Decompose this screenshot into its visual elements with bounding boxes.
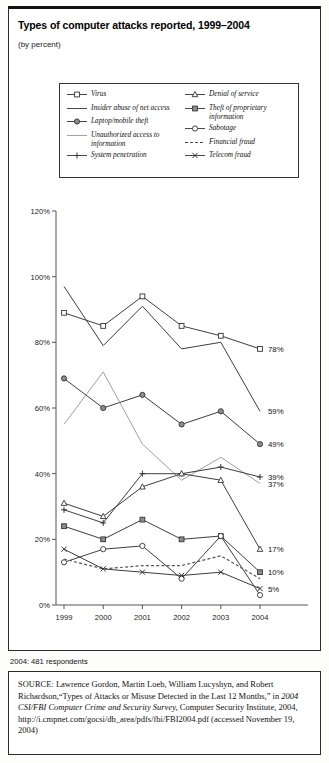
- series-system-penetration: 39%: [61, 464, 284, 526]
- data-point-marker: [101, 537, 106, 542]
- chart-svg: 0%20%40%60%80%100%120%199920002001200220…: [18, 195, 314, 647]
- data-point-marker: [257, 442, 262, 447]
- legend-item: Laptop/mobile theft: [66, 116, 182, 127]
- series-line: [64, 296, 260, 349]
- data-point-marker: [257, 474, 263, 480]
- series-unauthorized-access-to-information: 37%: [64, 372, 284, 489]
- x-axis-tick-label: 2003: [212, 613, 229, 622]
- x-axis-tick-label: 2001: [134, 613, 151, 622]
- data-point-marker: [218, 333, 223, 338]
- series-end-label: 78%: [268, 345, 284, 354]
- source-note: SOURCE: Lawrence Gordon, Martin Loeb, Wi…: [18, 679, 313, 737]
- legend-item: Telecom fraud: [184, 150, 296, 161]
- series-end-label: 17%: [268, 545, 284, 554]
- legend-item: Virus: [66, 89, 182, 100]
- legend-item-label: Telecom fraud: [209, 150, 251, 159]
- chart-subtitle: (by percent): [18, 40, 61, 49]
- series-line: [64, 287, 260, 412]
- data-point-marker: [61, 560, 66, 565]
- x-axis-tick-label: 2000: [95, 613, 112, 622]
- legend-item-label: Financial fraud: [209, 137, 255, 146]
- legend-item-label: System penetration: [91, 150, 147, 159]
- legend-item-label: Unauthorized access to information: [91, 130, 182, 148]
- y-axis-tick-label: 100%: [31, 273, 51, 282]
- legend-item: Denial of service: [184, 89, 296, 100]
- legend-item: Insider abuse of net access: [66, 103, 182, 114]
- series-line: [64, 549, 260, 588]
- series-insider-abuse-of-net-access: 59%: [64, 287, 284, 417]
- series-line: [64, 372, 260, 484]
- source-panel: SOURCE: Lawrence Gordon, Martin Loeb, Wi…: [8, 671, 321, 755]
- y-axis-tick-label: 0%: [39, 601, 50, 610]
- data-point-marker: [257, 546, 263, 551]
- series-end-label: 59%: [268, 407, 284, 416]
- line-chart-plot: 0%20%40%60%80%100%120%199920002001200220…: [18, 195, 314, 647]
- series-virus: 78%: [62, 294, 284, 354]
- data-point-marker: [101, 547, 106, 552]
- legend-item-label: Denial of service: [209, 89, 259, 98]
- chart-legend: VirusInsider abuse of net accessLaptop/m…: [59, 83, 299, 178]
- data-point-marker: [257, 593, 262, 598]
- x-axis-tick-label: 1999: [56, 613, 73, 622]
- legend-marker-filled-square-icon: [184, 103, 206, 114]
- series-telecom-fraud: 5%: [61, 547, 279, 594]
- series-line: [64, 556, 260, 579]
- data-point-marker: [258, 347, 263, 352]
- series-denial-of-service: 17%: [61, 471, 283, 555]
- x-axis-tick-label: 2002: [173, 613, 190, 622]
- series-financial-fraud: [64, 556, 260, 579]
- data-point-marker: [257, 586, 262, 591]
- y-axis-tick-label: 80%: [35, 338, 50, 347]
- data-point-marker: [62, 310, 67, 315]
- y-axis-tick-label: 20%: [35, 535, 50, 544]
- legend-marker-open-circle-icon: [184, 123, 206, 134]
- figure-page: Types of computer attacks reported, 1999…: [0, 0, 329, 763]
- legend-marker-x-icon: [184, 150, 206, 161]
- data-point-marker: [140, 517, 145, 522]
- legend-marker-none-icon: [66, 103, 88, 114]
- data-point-marker: [61, 376, 66, 381]
- legend-item: Unauthorized access to information: [66, 130, 182, 148]
- data-point-marker: [140, 392, 145, 397]
- source-label: SOURCE:: [18, 680, 54, 689]
- series-end-label: 49%: [268, 440, 284, 449]
- data-point-marker: [218, 409, 223, 414]
- data-point-marker: [258, 570, 263, 575]
- legend-item-label: Virus: [91, 89, 106, 98]
- source-text-1: Lawrence Gordon, Martin Loeb, William Lu…: [18, 679, 281, 701]
- y-axis-tick-label: 40%: [35, 470, 50, 479]
- data-point-marker: [61, 500, 67, 505]
- data-point-marker: [179, 537, 184, 542]
- y-axis-tick-label: 120%: [31, 207, 51, 216]
- legend-marker-open-square-icon: [66, 89, 88, 100]
- series-line: [64, 467, 260, 523]
- data-point-marker: [179, 324, 184, 329]
- y-axis-tick-label: 60%: [35, 404, 50, 413]
- data-point-marker: [61, 547, 66, 552]
- data-point-marker: [140, 543, 145, 548]
- chart-panel: Types of computer attacks reported, 1999…: [8, 6, 321, 651]
- series-line: [64, 379, 260, 445]
- legend-item: Theft of proprietary information: [184, 103, 296, 121]
- series-theft-of-proprietary-information: 10%: [62, 517, 284, 577]
- legend-item: Financial fraud: [184, 137, 296, 148]
- legend-item-label: Sabotage: [209, 123, 236, 132]
- data-point-marker: [140, 294, 145, 299]
- series-end-label: 10%: [268, 568, 284, 577]
- data-point-marker: [101, 324, 106, 329]
- legend-item-label: Insider abuse of net access: [91, 103, 170, 112]
- series-line: [64, 474, 260, 550]
- legend-item: Sabotage: [184, 123, 296, 134]
- data-point-marker: [61, 507, 67, 513]
- series-end-label: 5%: [268, 585, 279, 594]
- legend-item: System penetration: [66, 150, 182, 161]
- x-axis-tick-label: 2004: [252, 613, 269, 622]
- data-point-marker: [218, 533, 223, 538]
- legend-marker-plus-icon: [66, 150, 88, 161]
- respondents-note: 2004: 481 respondents: [10, 657, 88, 666]
- series-end-label: 39%: [268, 473, 284, 482]
- legend-item-label: Laptop/mobile theft: [91, 116, 148, 125]
- legend-marker-filled-circle-icon: [66, 116, 88, 127]
- legend-column-right: Denial of serviceTheft of proprietary in…: [184, 89, 296, 164]
- legend-marker-open-triangle-icon: [184, 89, 206, 100]
